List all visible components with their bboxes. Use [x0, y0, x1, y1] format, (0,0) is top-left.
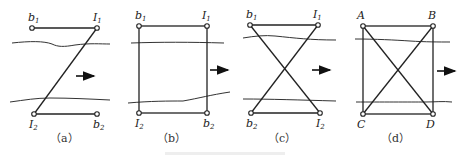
- panel-a: b1 I1 I2 b2 （a）: [10, 11, 110, 145]
- label-b2: b2: [203, 117, 215, 131]
- label-B: B: [427, 9, 436, 22]
- river-bank-bottom: [10, 98, 110, 102]
- panel-d: A B C D （d）: [355, 9, 455, 145]
- label-I2: I2: [134, 117, 144, 131]
- label-A: A: [356, 9, 365, 22]
- label-b1: b1: [135, 9, 147, 23]
- label-I2: I2: [28, 118, 38, 132]
- label-D: D: [425, 118, 435, 131]
- river-bank-top: [355, 39, 450, 42]
- label-b2: b2: [246, 117, 258, 131]
- river-bank-top: [12, 42, 110, 47]
- label-b1: b1: [28, 11, 40, 25]
- node-I1: [95, 26, 100, 31]
- label-I1: I1: [201, 9, 211, 23]
- river-bank-bottom: [243, 99, 336, 101]
- node-b1: [30, 26, 35, 31]
- caption-a: （a）: [50, 132, 79, 145]
- node-D: [431, 112, 436, 117]
- river-bank-bottom: [128, 92, 230, 103]
- edge-I1-I2: [34, 28, 97, 114]
- node-C: [361, 112, 366, 117]
- river-bank-top: [131, 42, 224, 43]
- panel-b: b1 I1 I2 b2 （b）: [128, 9, 230, 145]
- node-I1: [316, 23, 321, 28]
- node-B: [431, 24, 436, 29]
- label-C: C: [357, 118, 366, 131]
- node-b1: [248, 23, 253, 28]
- node-I2: [318, 111, 323, 116]
- rect-b1-I1-b2-I2: [139, 26, 207, 113]
- node-b2: [205, 111, 210, 116]
- river-bank-top: [243, 36, 336, 40]
- caption-d: （d）: [381, 132, 410, 145]
- node-I1: [205, 24, 210, 29]
- node-b2: [249, 111, 254, 116]
- caption-b: （b）: [157, 132, 186, 145]
- label-I2: I2: [315, 117, 325, 131]
- node-b1: [137, 24, 142, 29]
- faded-figure-caption: [165, 152, 285, 155]
- panel-c: b1 I1 b2 I2 （c）: [243, 8, 336, 145]
- node-A: [361, 24, 366, 29]
- caption-c: （c）: [268, 132, 296, 145]
- node-I2: [32, 112, 37, 117]
- node-I2: [137, 111, 142, 116]
- label-b2: b2: [93, 118, 105, 132]
- figure-canvas: b1 I1 I2 b2 （a） b1 I1 I2 b2 （b） b1 I1: [0, 0, 458, 159]
- label-b1: b1: [246, 8, 258, 22]
- label-I1: I1: [312, 8, 322, 22]
- label-I1: I1: [92, 11, 102, 25]
- node-b2: [95, 112, 100, 117]
